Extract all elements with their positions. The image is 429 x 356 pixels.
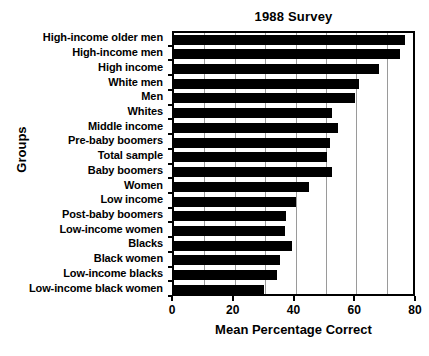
y-axis-tick-label: Women bbox=[124, 180, 163, 191]
y-axis-tick-label: High income bbox=[98, 62, 163, 73]
bar bbox=[174, 197, 296, 207]
bar bbox=[174, 226, 285, 236]
x-axis-tick-label: 80 bbox=[395, 303, 429, 317]
y-axis-tick-label: Low-income women bbox=[59, 224, 163, 235]
bar bbox=[174, 182, 309, 192]
y-axis-tick-label: High-income older men bbox=[43, 32, 163, 43]
x-axis-tick bbox=[232, 296, 234, 301]
y-axis-tick-label: Men bbox=[141, 91, 163, 102]
y-axis-tick bbox=[168, 221, 173, 223]
y-axis-tick bbox=[168, 236, 173, 238]
y-axis-tick-label: Low-income black women bbox=[29, 283, 163, 294]
bar bbox=[174, 108, 332, 118]
chart-title: 1988 Survey bbox=[172, 9, 415, 24]
y-axis-tick bbox=[168, 148, 173, 150]
y-axis-tick-label: Whites bbox=[128, 106, 163, 117]
y-axis-tick-label: Low-income blacks bbox=[63, 268, 163, 279]
y-axis-tick-label: Black women bbox=[94, 253, 163, 264]
bar bbox=[174, 167, 332, 177]
bar bbox=[174, 93, 355, 103]
x-axis-tick-label: 60 bbox=[334, 303, 374, 317]
y-axis-tick bbox=[168, 118, 173, 120]
y-axis-tick-label: Post-baby boomers bbox=[62, 209, 163, 220]
x-axis-tick bbox=[414, 296, 416, 301]
y-axis-tick bbox=[168, 251, 173, 253]
x-axis-tick-label: 0 bbox=[152, 303, 192, 317]
x-axis-tick bbox=[353, 296, 355, 301]
x-axis-title: Mean Percentage Correct bbox=[172, 322, 415, 337]
y-axis-tick-label: Middle income bbox=[88, 121, 163, 132]
y-axis-tick bbox=[168, 266, 173, 268]
bar bbox=[174, 211, 286, 221]
y-axis-tick-label: High-income men bbox=[72, 47, 163, 58]
y-axis-tick bbox=[168, 133, 173, 135]
x-axis-tick bbox=[293, 296, 295, 301]
bar bbox=[174, 49, 400, 59]
y-axis-tick-label: Low income bbox=[100, 194, 163, 205]
bar bbox=[174, 138, 330, 148]
y-axis-tick bbox=[168, 207, 173, 209]
y-axis-tick-label: Pre-baby boomers bbox=[68, 135, 163, 146]
bars-layer bbox=[174, 33, 413, 294]
y-axis-tick bbox=[168, 59, 173, 61]
bar-chart: 1988 Survey Groups High-income older men… bbox=[0, 0, 429, 356]
bar bbox=[174, 270, 277, 280]
bar bbox=[174, 79, 359, 89]
y-axis-tick bbox=[168, 295, 173, 297]
y-axis-tick-label: Total sample bbox=[98, 150, 163, 161]
y-axis-tick bbox=[168, 89, 173, 91]
y-axis-tick-label: Blacks bbox=[128, 238, 163, 249]
y-axis-tick-label: White men bbox=[108, 77, 163, 88]
x-axis-tick-label: 40 bbox=[274, 303, 314, 317]
bar bbox=[174, 123, 338, 133]
bar bbox=[174, 285, 264, 295]
x-axis-tick-label: 20 bbox=[213, 303, 253, 317]
bar bbox=[174, 152, 327, 162]
bar bbox=[174, 241, 292, 251]
y-axis-tick bbox=[168, 163, 173, 165]
y-axis-tick-labels: High-income older menHigh-income menHigh… bbox=[0, 31, 168, 296]
y-axis-tick bbox=[168, 45, 173, 47]
y-axis-tick bbox=[168, 177, 173, 179]
bar bbox=[174, 35, 405, 45]
y-axis-tick bbox=[168, 104, 173, 106]
plot-area bbox=[172, 31, 415, 296]
bar bbox=[174, 64, 379, 74]
y-axis-tick bbox=[168, 192, 173, 194]
y-axis-tick-label: Baby boomers bbox=[88, 165, 163, 176]
y-axis-tick bbox=[168, 280, 173, 282]
bar bbox=[174, 255, 280, 265]
y-axis-tick bbox=[168, 74, 173, 76]
